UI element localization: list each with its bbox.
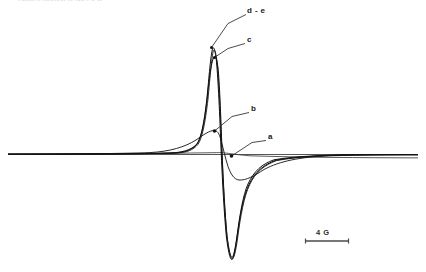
curve-label-c: c — [247, 36, 252, 44]
leader-line-de — [212, 15, 247, 48]
curve-d — [8, 48, 418, 260]
spectrum-plot — [0, 0, 426, 272]
leader-line-a — [232, 141, 267, 157]
scale-bar — [305, 239, 349, 244]
dot-de — [210, 46, 213, 49]
curve-label-a: a — [268, 133, 273, 141]
dot-b — [213, 129, 217, 133]
curve-c — [8, 56, 418, 257]
dot-c — [213, 56, 216, 59]
leader-line-c — [215, 44, 246, 58]
curve-label-b: b — [251, 105, 256, 113]
scale-bar-label: 4 G — [316, 229, 330, 237]
dot-a — [230, 154, 234, 158]
curve-label-d-e: d - e — [247, 7, 265, 15]
epr-spectrum-figure: clipped running header text — [0, 0, 426, 272]
